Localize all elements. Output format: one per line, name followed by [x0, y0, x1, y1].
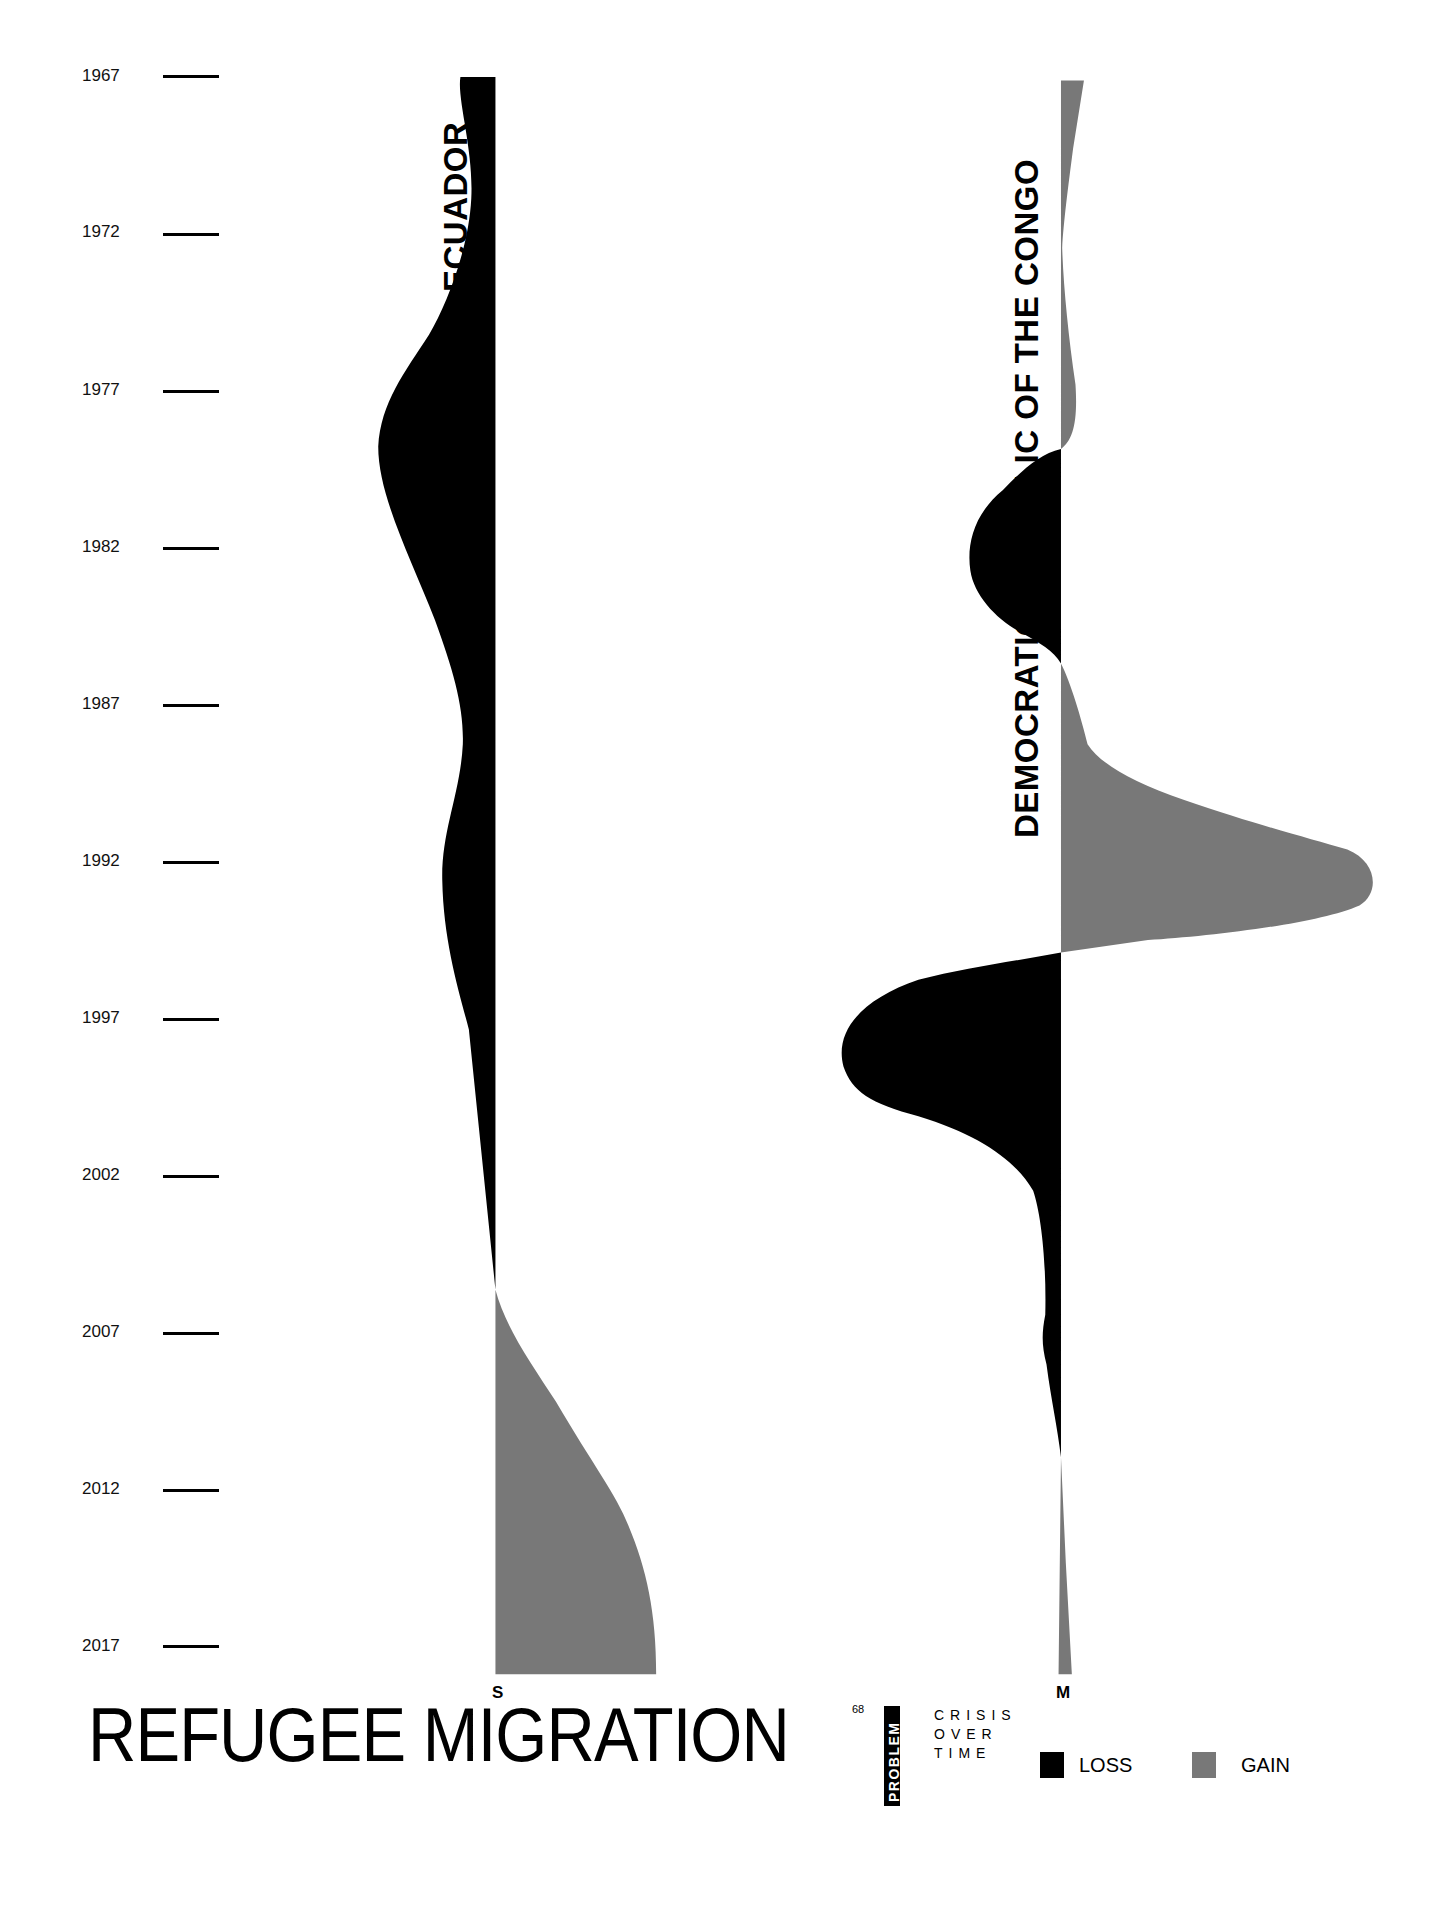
drc-loss-area-1997: [842, 953, 1061, 1458]
country-label-ecuador: ECUADOR: [437, 122, 475, 292]
year-tick: [163, 1332, 219, 1335]
drc-gain-area-bottom: [1059, 1457, 1072, 1674]
year-tick: [163, 1018, 219, 1021]
year-tick: [163, 1645, 219, 1648]
ecuador-gain-area: [495, 1290, 656, 1674]
drc-gain-area-1992: [1061, 664, 1373, 953]
legend-swatch-loss: [1040, 1752, 1064, 1778]
subtitle-line: OVER: [934, 1725, 1017, 1744]
year-label: 2012: [82, 1479, 142, 1499]
year-tick: [163, 704, 219, 707]
chart-canvas: [0, 0, 1438, 1910]
year-tick: [163, 1489, 219, 1492]
legend-label-gain: GAIN: [1241, 1754, 1290, 1777]
page-title: REFUGEE MIGRATION: [88, 1697, 789, 1773]
year-tick: [163, 233, 219, 236]
subtitle-line: CRISIS: [934, 1706, 1017, 1725]
year-label: 2017: [82, 1636, 142, 1656]
title-superscript: 68: [852, 1703, 864, 1715]
year-tick: [163, 75, 219, 78]
year-label: 1982: [82, 537, 142, 557]
year-label: 1997: [82, 1008, 142, 1028]
year-label: 1992: [82, 851, 142, 871]
year-tick: [163, 861, 219, 864]
year-label: 1972: [82, 222, 142, 242]
legend-label-loss: LOSS: [1079, 1754, 1132, 1777]
axis-letter-drc: M: [1056, 1683, 1070, 1703]
country-label-drc: DEMOCRATIC REPUBLIC OF THE CONGO: [1008, 159, 1046, 838]
drc-gain-area-top: [1061, 81, 1084, 449]
subtitle: CRISIS OVER TIME: [934, 1706, 1017, 1763]
year-label: 1977: [82, 380, 142, 400]
year-label: 1987: [82, 694, 142, 714]
year-label: 2007: [82, 1322, 142, 1342]
subtitle-line: TIME: [934, 1744, 1017, 1763]
year-tick: [163, 390, 219, 393]
year-label: 1967: [82, 66, 142, 86]
problem-tag-label: PROBLEM: [886, 1722, 902, 1803]
legend-swatch-gain: [1192, 1752, 1216, 1778]
year-tick: [163, 1175, 219, 1178]
year-tick: [163, 547, 219, 550]
year-label: 2002: [82, 1165, 142, 1185]
